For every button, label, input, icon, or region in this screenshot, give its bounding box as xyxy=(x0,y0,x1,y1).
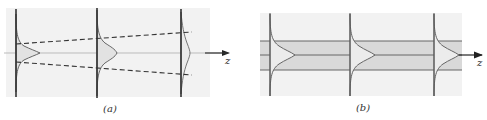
beam-propagation-figure: z (a) z (b) xyxy=(0,0,487,120)
panel-b-z-label: z xyxy=(476,57,483,68)
panel-a: z (a) xyxy=(4,8,231,114)
panel-a-caption: (a) xyxy=(103,103,117,114)
panel-b-caption: (b) xyxy=(356,102,370,113)
panel-a-z-label: z xyxy=(224,55,231,66)
panel-b: z (b) xyxy=(260,13,483,113)
